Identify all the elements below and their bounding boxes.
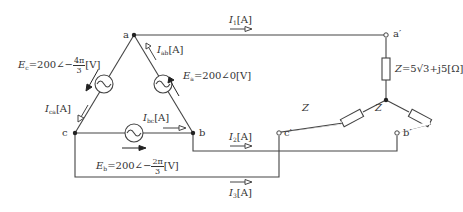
impedance-c bbox=[340, 109, 363, 126]
label-ica: Ica[A] bbox=[45, 104, 71, 115]
impedance-a bbox=[382, 58, 390, 80]
node-label-a: a bbox=[123, 30, 129, 40]
label-z-value: Z=5√3+j5[Ω] bbox=[395, 64, 463, 74]
node-a-dot bbox=[132, 33, 136, 37]
label-eb: Eb=200∠−2π3[V] bbox=[96, 157, 179, 176]
label-z-right: Z bbox=[375, 103, 382, 113]
node-label-b: b bbox=[199, 128, 205, 138]
node-label-b-prime: b′ bbox=[403, 128, 412, 138]
star-center-dot bbox=[384, 98, 388, 102]
node-label-a-prime: a′ bbox=[393, 29, 401, 39]
label-ibc: Ibc[A] bbox=[143, 113, 169, 124]
node-c-dot bbox=[73, 131, 77, 135]
node-label-c: c bbox=[62, 128, 68, 138]
label-i3: I3[A] bbox=[229, 188, 252, 199]
label-i2: I2[A] bbox=[229, 132, 252, 143]
label-ec: Ec=200∠−4π3[V] bbox=[18, 56, 100, 75]
label-iab: Iab[A] bbox=[157, 45, 183, 56]
node-label-c-prime: c′ bbox=[284, 128, 292, 138]
label-i1: I1[A] bbox=[229, 15, 252, 26]
terminal-c-prime bbox=[277, 131, 281, 135]
node-b-dot bbox=[191, 131, 195, 135]
terminal-a-prime bbox=[384, 33, 388, 37]
label-z-left: Z bbox=[302, 103, 309, 113]
wire-b-bprime bbox=[193, 133, 397, 151]
terminal-b-prime bbox=[395, 131, 399, 135]
label-ea: Ea=200∠0[V] bbox=[183, 71, 251, 82]
